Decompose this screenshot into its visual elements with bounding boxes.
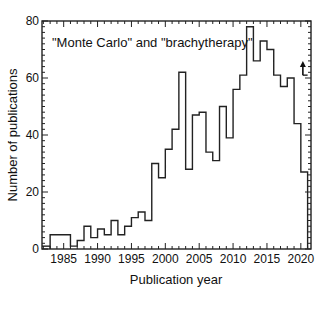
y-tick-label: 80 — [26, 14, 40, 28]
y-tick-label: 40 — [26, 128, 40, 142]
histogram-steps — [50, 27, 307, 249]
x-tick-label: 1990 — [84, 252, 111, 266]
y-tick-label: 60 — [26, 71, 40, 85]
axis-tick-labels: 1985199019952000200520102015202002040608… — [26, 14, 315, 266]
axis-ticks — [42, 21, 311, 249]
x-tick-label: 1995 — [118, 252, 145, 266]
plot-frame — [42, 21, 311, 249]
chart-svg: 1985199019952000200520102015202002040608… — [0, 0, 330, 315]
x-tick-label: 2000 — [152, 252, 179, 266]
x-axis-label: Publication year — [130, 272, 223, 287]
publication-histogram-chart: 1985199019952000200520102015202002040608… — [0, 0, 330, 315]
x-tick-label: 2015 — [254, 252, 281, 266]
y-axis-label: Number of publications — [5, 68, 20, 201]
y-tick-label: 0 — [32, 242, 39, 256]
chart-annotation: "Monte Carlo" and "brachytherapy" — [52, 35, 253, 50]
x-tick-label: 2005 — [186, 252, 213, 266]
projection-arrow-2020 — [300, 61, 308, 75]
x-tick-label: 2020 — [287, 252, 314, 266]
y-tick-label: 20 — [26, 185, 40, 199]
x-tick-label: 2010 — [220, 252, 247, 266]
x-tick-label: 1985 — [50, 252, 77, 266]
